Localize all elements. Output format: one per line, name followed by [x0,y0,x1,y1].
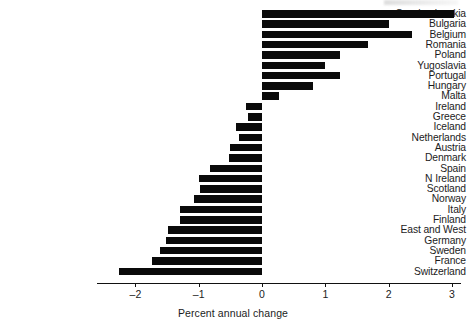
bar [262,41,368,49]
bar [262,20,389,28]
bar [246,103,262,111]
axis-tick [199,283,200,287]
bar [119,268,262,276]
x-tick-label: 2 [374,288,404,300]
bar [262,92,279,100]
x-axis-title: Percent annual change [0,307,466,319]
category-label: Switzerland [360,266,466,277]
scan-artifact [384,0,458,5]
axis-tick [135,283,136,287]
bar [262,82,313,90]
bar [236,123,262,131]
x-tick-label: 3 [437,288,467,300]
x-tick-label: 1 [310,288,340,300]
axis-rule [97,283,461,284]
axis-tick [262,283,263,287]
plot-area: CzechoslovakiaBulgariaBelgiumRomaniaPola… [0,6,466,278]
bar [262,51,340,59]
x-tick-label: –1 [184,288,214,300]
x-tick-label: 0 [247,288,277,300]
bar [229,154,262,162]
bar [262,62,325,70]
bar [199,175,262,183]
bar [160,247,262,255]
axis-tick [325,283,326,287]
bar [262,72,340,80]
bar [200,185,262,193]
bar [262,31,412,39]
bar [168,226,262,234]
bar [248,113,262,121]
bar [194,195,262,203]
bar [262,10,454,18]
axis-tick [389,283,390,287]
bar [180,206,262,214]
bar [180,216,262,224]
bar [166,237,262,245]
bar [152,257,262,265]
bar [230,144,262,152]
axis-tick [452,283,453,287]
bar [210,165,262,173]
x-tick-label: –2 [120,288,150,300]
bar [239,134,262,142]
chart-row: Switzerland [0,267,466,277]
